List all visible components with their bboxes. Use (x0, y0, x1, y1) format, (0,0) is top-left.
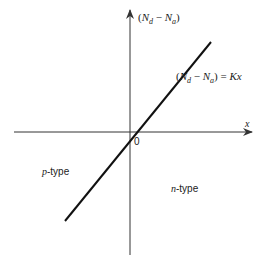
y-axis-label: (Nd − Na) (138, 11, 180, 26)
p-type-label: p-type (41, 166, 70, 177)
n-type-label: n-type (171, 183, 199, 194)
x-axis-label: x (244, 118, 250, 129)
doping-profile-diagram: (Nd − Na) (Nd − Na) = Kx x 0 p-type n-ty… (0, 0, 261, 264)
origin-label: 0 (134, 136, 140, 147)
line-equation-label: (Nd − Na) = Kx (176, 70, 242, 85)
